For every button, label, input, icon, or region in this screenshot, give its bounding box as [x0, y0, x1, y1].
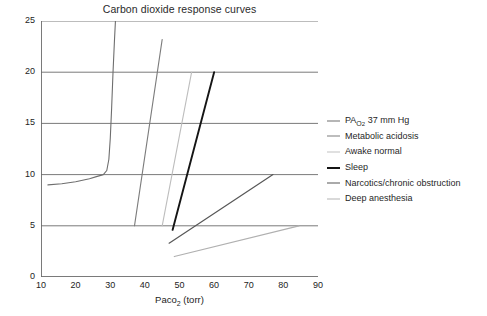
series-line-metabolic-acidosis: [134, 39, 162, 225]
legend-line-swatch-icon: [327, 162, 340, 174]
legend-line-swatch-icon: [327, 115, 340, 127]
legend-item-label: Narcotics/chronic obstruction: [345, 179, 461, 188]
legend-line-swatch-icon: [327, 146, 340, 158]
legend-line-swatch-icon: [327, 177, 340, 189]
plot-area: [41, 21, 318, 277]
x-axis-title: Paco2 (torr): [41, 294, 318, 305]
x-axis-title-base: Paco: [155, 294, 177, 305]
x-axis-title-unit: (torr): [181, 294, 204, 305]
legend-item-label: PAO2 37 mm Hg: [345, 116, 409, 125]
x-tick-label-10: 10: [26, 280, 56, 290]
legend-item[interactable]: Narcotics/chronic obstruction: [327, 175, 487, 191]
legend-item-label: Awake normal: [345, 147, 402, 156]
plot-svg: [41, 21, 318, 277]
x-tick-label-70: 70: [234, 280, 264, 290]
legend-line-swatch-icon: [327, 130, 340, 142]
chart-figure: Carbon dioxide response curves Alveolar …: [0, 0, 487, 316]
legend-item[interactable]: Awake normal: [327, 144, 487, 160]
legend-item-label: Metabolic acidosis: [345, 132, 419, 141]
chart-legend: PAO2 37 mm HgMetabolic acidosisAwake nor…: [327, 113, 487, 207]
legend-item-label: Deep anesthesia: [345, 194, 413, 203]
chart-title: Carbon dioxide response curves: [41, 3, 318, 15]
series-line-sleep: [173, 72, 215, 230]
series-line-deep-anesthesia: [174, 226, 299, 257]
legend-item[interactable]: Metabolic acidosis: [327, 129, 487, 145]
y-tick-label-15: 15: [7, 117, 35, 127]
legend-line-swatch-icon: [327, 193, 340, 205]
series-line-pao2-37-mm-hg: [48, 21, 116, 185]
x-tick-label-40: 40: [130, 280, 160, 290]
legend-item-label: Sleep: [345, 163, 368, 172]
x-tick-label-20: 20: [61, 280, 91, 290]
x-tick-label-80: 80: [268, 280, 298, 290]
y-tick-label-5: 5: [7, 220, 35, 230]
x-tick-label-50: 50: [165, 280, 195, 290]
series-line-awake-normal: [162, 72, 191, 226]
y-tick-label-10: 10: [7, 169, 35, 179]
x-tick-label-30: 30: [95, 280, 125, 290]
legend-item[interactable]: PAO2 37 mm Hg: [327, 113, 487, 129]
legend-item[interactable]: Deep anesthesia: [327, 191, 487, 207]
y-tick-label-20: 20: [7, 66, 35, 76]
x-tick-label-90: 90: [303, 280, 333, 290]
y-tick-label-25: 25: [7, 15, 35, 25]
legend-item[interactable]: Sleep: [327, 160, 487, 176]
x-tick-label-60: 60: [199, 280, 229, 290]
